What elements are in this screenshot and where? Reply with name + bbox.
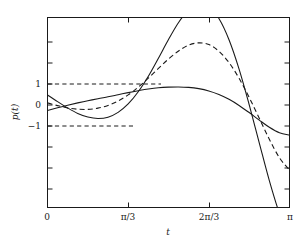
y-tick-label-neg1: −1 [28,121,41,131]
x-tick-label-2pi-over-3: 2π/3 [199,212,220,222]
chart-figure: 1 0 −1 0 π/3 2π/3 π t p(t) [0,0,304,245]
curve-p1 [48,87,290,135]
curve-p3 [48,4,290,237]
x-tick-label-pi: π [287,212,293,222]
x-tick-label-0: 0 [44,212,50,222]
y-tick-label-1: 1 [35,79,41,89]
plot-svg: 1 0 −1 0 π/3 2π/3 π t p(t) [0,0,304,245]
x-axis-label: t [166,227,170,237]
curve-p2-dashed [48,43,290,170]
plot-frame [48,18,290,208]
y-tick-marks [48,42,53,189]
y-tick-label-0: 0 [35,100,41,110]
y-axis-label: p(t) [10,103,20,120]
x-tick-label-pi-over-3: π/3 [121,212,136,222]
x-tick-marks [129,18,210,208]
